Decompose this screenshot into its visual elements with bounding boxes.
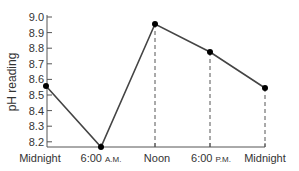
y-axis-title: pH reading	[5, 53, 19, 112]
x-tick-label: Midnight	[19, 152, 61, 164]
ph-line-chart: 9.0 8.9 8.8 8.7 8.6 8.5 8.4 8.3 8.2 pH r…	[0, 0, 299, 171]
x-tick-label-time: 6:00	[81, 152, 105, 164]
x-tick-label: Midnight	[244, 152, 286, 164]
x-tick-label-suffix: A.M.	[105, 155, 121, 164]
y-ticks	[47, 17, 52, 142]
y-tick-label: 8.9	[29, 27, 44, 39]
y-tick-label: 8.6	[29, 73, 44, 85]
x-tick-label-time: 6:00	[191, 152, 215, 164]
x-tick-label-suffix: P.M.	[216, 155, 231, 164]
data-point	[98, 144, 104, 150]
x-ticks	[101, 143, 265, 147]
data-point	[152, 21, 158, 27]
data-point	[262, 85, 268, 91]
y-tick-label: 8.8	[29, 42, 44, 54]
y-tick-label: 8.2	[29, 136, 44, 148]
drop-lines	[155, 24, 265, 147]
y-tick-label: 8.3	[29, 120, 44, 132]
y-tick-label: 8.7	[29, 58, 44, 70]
y-tick-label: 8.5	[29, 89, 44, 101]
y-tick-label: 8.4	[29, 105, 44, 117]
data-point	[43, 83, 49, 89]
x-tick-label: Noon	[144, 152, 170, 164]
ph-series-line	[46, 24, 265, 147]
x-tick-label: 6:00 P.M.	[191, 152, 231, 164]
y-tick-label: 9.0	[29, 11, 44, 23]
x-tick-label: 6:00 A.M.	[81, 152, 122, 164]
data-point	[207, 49, 213, 55]
